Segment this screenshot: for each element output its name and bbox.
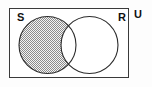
- set-label-s: S: [17, 11, 24, 23]
- set-label-r: R: [118, 11, 126, 23]
- universal-set-label-u: U: [134, 8, 142, 20]
- venn-diagram-canvas: S R U: [0, 0, 152, 87]
- venn-diagram-figure: S R U: [0, 0, 152, 87]
